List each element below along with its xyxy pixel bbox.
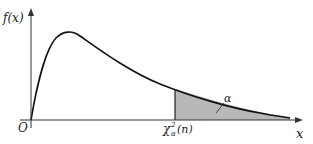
x-axis-arrow-icon: [295, 117, 303, 123]
density-curve: [31, 32, 290, 120]
origin-label: O: [18, 121, 28, 135]
chi-square-diagram: f(x) x O χ 2 α (n) α: [0, 0, 313, 144]
critical-value-label: χ 2 α (n): [162, 121, 193, 138]
x-axis-label: x: [296, 126, 304, 141]
svg-text:α: α: [171, 130, 176, 138]
alpha-label: α: [224, 92, 232, 105]
svg-text:(n): (n): [177, 123, 193, 136]
y-axis-label: f(x): [2, 11, 24, 25]
svg-text:χ: χ: [162, 122, 171, 136]
y-axis-arrow-icon: [28, 8, 34, 16]
svg-text:2: 2: [170, 121, 176, 129]
